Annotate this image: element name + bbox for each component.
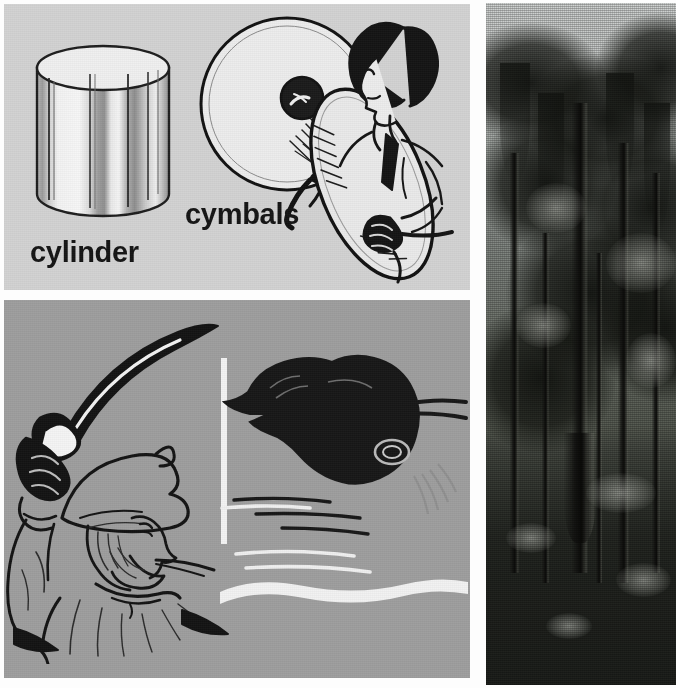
illustration-plate: cylinder (0, 0, 676, 688)
cypress-swamp-photograph (486, 3, 676, 685)
halftone-grain-overlay (486, 3, 676, 685)
bottom-left-illustration-panel: cutlass (4, 300, 470, 678)
top-left-illustration-panel: cylinder (4, 4, 470, 290)
right-photograph-panel: cypress (486, 3, 676, 685)
cylinder-figure (30, 42, 176, 228)
cymbal-player-figure (190, 12, 466, 290)
label-cymbals: cymbals (185, 200, 299, 229)
pirate-with-cutlass-figure (6, 312, 242, 664)
cuttlefish-figure (216, 348, 470, 638)
label-cylinder: cylinder (30, 238, 139, 267)
